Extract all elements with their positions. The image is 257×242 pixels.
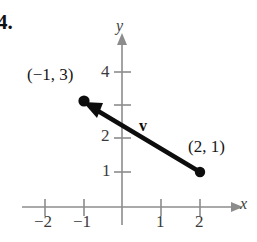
y-tick-label-4: 4 — [101, 63, 110, 80]
vector-label: v — [139, 118, 147, 134]
y-axis-arrowhead — [117, 33, 127, 45]
initial-point-label: (2, 1) — [188, 138, 225, 155]
y-tick-label-2: 2 — [101, 127, 110, 144]
x-tick-label-1: 1 — [156, 213, 165, 230]
x-tick-label--1: −1 — [73, 213, 91, 230]
point--1-3 — [78, 95, 89, 106]
vector-figure: 4. y x 4 2 1 −2 −1 1 2 (−1, 3) (2, 1 — [0, 0, 257, 242]
y-tick-label-1: 1 — [102, 162, 111, 179]
y-axis-label: y — [116, 18, 123, 34]
x-axis-label: x — [240, 196, 247, 212]
x-tick-label--2: −2 — [34, 213, 52, 230]
coordinate-plane — [0, 0, 257, 242]
x-tick-label-2: 2 — [195, 213, 204, 230]
point-2-1 — [195, 167, 205, 177]
terminal-point-label: (−1, 3) — [27, 66, 73, 83]
